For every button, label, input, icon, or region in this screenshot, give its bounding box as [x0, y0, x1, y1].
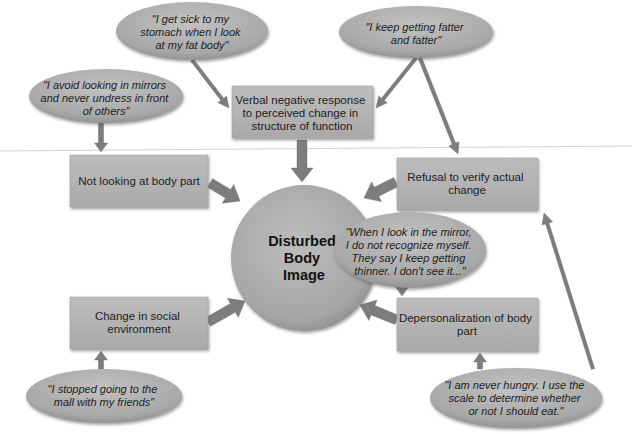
box-label-line: part	[457, 325, 478, 337]
box-verbal: Verbal negative response to perceived ch…	[232, 86, 373, 138]
box-label-line: environment	[107, 323, 171, 335]
arrow-refusal-to-center	[364, 178, 398, 202]
quote-line: "When I look in the mirror,	[345, 226, 471, 238]
arrow-hungry-to-depersonalization	[474, 353, 487, 369]
quote-line: and fatter"	[391, 34, 442, 46]
quote-recognize-text: "When I look in the mirror, I do not rec…	[345, 226, 474, 277]
box-not-looking-label: Not looking at body part	[78, 175, 200, 187]
arrow-verbal-to-center	[291, 140, 313, 182]
quote-line: "I stopped going to the	[48, 383, 158, 395]
quote-line: "I am never hungry. I use the	[444, 379, 584, 391]
body-image-diagram: Disturbed Body Image Verbal negative res…	[0, 0, 632, 434]
arrow-fatter-to-verbal	[376, 57, 417, 108]
quote-mall-text: "I stopped going to the mall with my fri…	[48, 383, 161, 408]
quote-line: scale to determine whether	[448, 392, 581, 404]
quote-stomach-text: "I get sick to my stomach when I look at…	[140, 13, 243, 51]
quote-line: and never undress in front	[41, 92, 170, 104]
box-label-line: Verbal negative response	[236, 94, 366, 106]
box-label-line: to perceived change in	[243, 107, 359, 119]
center-label-line: Image	[283, 267, 325, 283]
quote-line: thinner. I don't see it..."	[354, 265, 466, 277]
quote-line: or not I should eat."	[468, 405, 564, 417]
quote-fatter: "I keep getting fatter and fatter"	[339, 6, 493, 58]
center-label-line: Disturbed	[268, 233, 336, 249]
arrow-not-looking-to-center	[207, 179, 240, 204]
arrow-depersonalization-to-center	[360, 300, 399, 325]
arrow-stomach-to-verbal	[191, 59, 229, 108]
box-not-looking: Not looking at body part	[70, 155, 208, 207]
box-label-line: structure of function	[252, 120, 353, 132]
arrow-mall-to-social	[95, 351, 108, 369]
box-refusal: Refusal to verify actual change	[397, 158, 538, 210]
quote-line: mall with my friends"	[54, 396, 156, 408]
box-verbal-label: Verbal negative response to perceived ch…	[236, 94, 369, 132]
box-label-line: Depersonalization of body	[399, 312, 532, 324]
box-label-line: Not looking at body part	[78, 175, 200, 187]
arrow-fatter-to-refusal	[418, 57, 459, 154]
quote-line: "I avoid looking in mirrors	[43, 79, 167, 91]
box-label-line: Change in social	[95, 310, 180, 322]
quote-recognize: "When I look in the mirror, I do not rec…	[334, 212, 486, 288]
quote-line: I do not recognize myself.	[346, 239, 471, 251]
background-rule-line	[0, 146, 632, 151]
quote-stomach: "I get sick to my stomach when I look at…	[116, 2, 268, 60]
quote-mirrors: "I avoid looking in mirrors and never un…	[29, 69, 183, 123]
box-social-label: Change in social environment	[95, 310, 183, 335]
box-social: Change in social environment	[70, 297, 208, 349]
quote-mall: "I stopped going to the mall with my fri…	[26, 369, 182, 423]
center-label-line: Body	[284, 250, 320, 266]
quote-line: of others"	[83, 105, 131, 117]
quote-line: "I get sick to my	[152, 13, 231, 25]
quote-line: at my fat body"	[156, 39, 230, 51]
quote-line: "I keep getting fatter	[365, 21, 464, 33]
box-label-line: Refusal to verify actual	[407, 171, 523, 183]
arrow-social-to-center	[206, 298, 246, 326]
box-depersonalization: Depersonalization of body part	[397, 298, 538, 351]
quote-line: stomach when I look	[140, 26, 241, 38]
quote-hungry: "I am never hungry. I use the scale to d…	[430, 368, 602, 428]
arrow-hungry-to-refusal	[542, 213, 595, 370]
quote-line: They say I keep getting	[352, 252, 467, 264]
box-label-line: change	[448, 184, 486, 196]
arrow-mirrors-to-not-looking	[95, 123, 108, 152]
